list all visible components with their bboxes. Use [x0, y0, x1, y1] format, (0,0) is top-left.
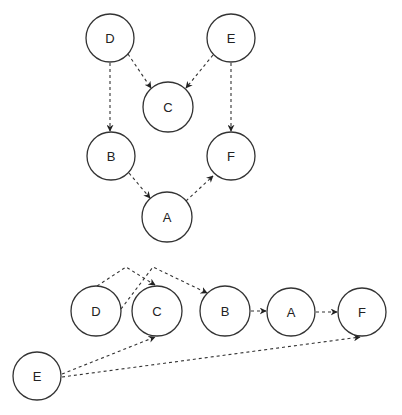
bottom-node-D: D [71, 286, 121, 336]
edge-top-B-to-A [129, 173, 150, 198]
bottom-node-B: B [200, 286, 250, 336]
bottom-node-A-label: A [287, 305, 296, 320]
top-graph: D E C B F A [86, 14, 255, 242]
top-node-B-label: B [107, 149, 116, 164]
edge-bottom-D-to-C [97, 267, 155, 286]
top-node-F-label: F [227, 149, 235, 164]
top-node-A: A [142, 192, 192, 242]
top-node-E-label: E [227, 31, 236, 46]
dag-diagram: D E C B F A [0, 0, 402, 415]
top-node-D: D [86, 14, 134, 62]
top-node-D-label: D [105, 31, 114, 46]
edge-top-D-to-C [128, 54, 151, 88]
top-node-A-label: A [163, 210, 172, 225]
edge-bottom-E-to-F [62, 337, 360, 377]
top-node-F: F [207, 132, 255, 180]
bottom-node-F: F [338, 288, 386, 336]
top-node-C-label: C [163, 100, 172, 115]
bottom-node-C-label: C [152, 304, 161, 319]
top-node-C: C [143, 82, 193, 132]
bottom-graph: D C B A F E [13, 267, 386, 400]
bottom-node-A: A [267, 288, 315, 336]
edge-bottom-E-to-C [62, 337, 155, 374]
bottom-node-F-label: F [358, 305, 366, 320]
top-node-E: E [207, 14, 255, 62]
bottom-node-D-label: D [91, 304, 100, 319]
edge-top-A-to-F [186, 176, 213, 201]
bottom-node-E-label: E [33, 369, 42, 384]
bottom-node-B-label: B [221, 304, 230, 319]
edge-top-E-to-C [186, 55, 213, 88]
top-node-B: B [87, 132, 135, 180]
bottom-node-E: E [13, 352, 61, 400]
bottom-node-C: C [132, 286, 182, 336]
